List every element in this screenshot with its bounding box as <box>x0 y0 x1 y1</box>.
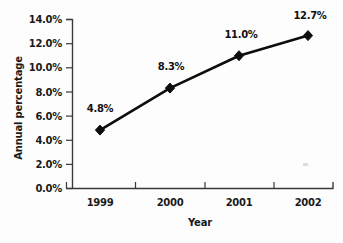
data-point-2000 <box>165 83 174 93</box>
y-tick-label-12: 12.0% <box>29 38 62 49</box>
y-tick-label-0: 0.0% <box>35 183 62 194</box>
y-axis-title: Annual percentage <box>13 56 24 160</box>
series-markers <box>95 31 312 136</box>
x-tick-label-2002: 2002 <box>295 197 322 208</box>
data-point-2002 <box>303 31 312 41</box>
x-axis-title: Year <box>187 217 212 228</box>
x-tick-label-2001: 2001 <box>226 197 253 208</box>
data-label-2002: 12.7% <box>293 10 326 21</box>
y-tick-label-14: 14.0% <box>29 14 62 25</box>
y-tick-label-4: 4.0% <box>35 135 62 146</box>
y-tick-label-8: 8.0% <box>35 87 62 98</box>
y-tick-label-2: 2.0% <box>35 159 62 170</box>
y-tick-label-6: 6.0% <box>35 111 62 122</box>
y-tick-marks <box>66 20 73 189</box>
data-point-2001 <box>234 51 243 61</box>
line-chart: 14.0% 12.0% 10.0% 8.0% 6.0% 4.0% 2.0% 0.… <box>0 0 343 243</box>
x-tick-marks <box>67 182 275 189</box>
data-label-2000: 8.3% <box>158 61 185 72</box>
series-line-annual-percentage <box>100 36 308 131</box>
y-tick-label-10: 10.0% <box>29 62 62 73</box>
chart-canvas: 14.0% 12.0% 10.0% 8.0% 6.0% 4.0% 2.0% 0.… <box>0 0 343 243</box>
scan-artifact <box>303 163 308 166</box>
data-label-1999: 4.8% <box>87 103 114 114</box>
x-tick-label-2000: 2000 <box>157 197 184 208</box>
data-point-1999 <box>95 125 104 135</box>
x-tick-label-1999: 1999 <box>87 197 114 208</box>
data-label-2001: 11.0% <box>224 29 257 40</box>
